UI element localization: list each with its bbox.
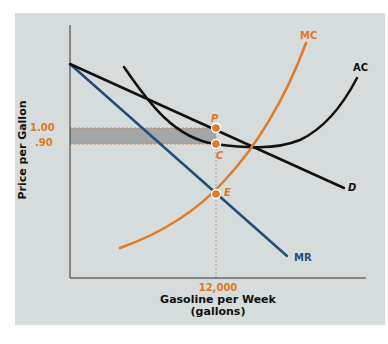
demand-curve — [70, 64, 344, 188]
mr-label: MR — [294, 252, 312, 263]
point-e — [212, 190, 221, 199]
d-label: D — [348, 182, 356, 193]
x-tick-12000: 12,000 — [199, 282, 238, 293]
ac-label: AC — [353, 62, 368, 73]
y-tick-1-00: 1.00 — [30, 122, 55, 133]
mr-curve — [70, 64, 287, 256]
p-label: P — [211, 113, 218, 124]
mc-label: MC — [300, 30, 317, 41]
profit-area — [70, 128, 216, 144]
c-label: C — [216, 150, 223, 161]
point-c — [212, 140, 221, 149]
e-label: E — [224, 187, 231, 198]
y-tick-0-90: .90 — [35, 137, 53, 148]
x-axis-label-line2: (gallons) — [160, 306, 276, 318]
x-axis-label: Gasoline per Week (gallons) — [160, 294, 276, 318]
y-axis-label: Price per Gallon — [16, 100, 29, 199]
point-p — [212, 124, 221, 133]
